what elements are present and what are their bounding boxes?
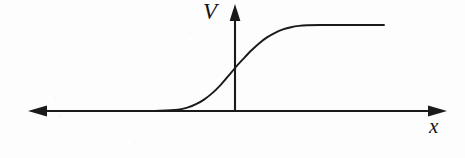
figure-canvas: V x xyxy=(0,0,465,158)
x-axis-left-arrowhead xyxy=(28,105,47,116)
potential-curve xyxy=(50,25,384,111)
potential-step-plot xyxy=(0,0,465,158)
y-axis-label: V xyxy=(203,0,217,23)
y-axis-arrowhead xyxy=(230,4,241,21)
x-axis-label: x xyxy=(429,116,438,137)
